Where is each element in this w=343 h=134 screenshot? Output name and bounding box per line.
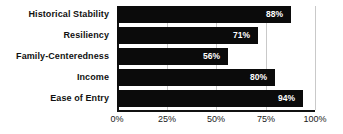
- gridline-100: [315, 6, 316, 110]
- category-axis-labels: Historical Stability Resiliency Family-C…: [0, 6, 113, 110]
- bar-value-income: 80%: [250, 69, 267, 86]
- bar-row-historical-stability: 88%: [117, 6, 315, 23]
- category-label-family-centeredness: Family-Centeredness: [16, 48, 109, 65]
- x-tick-label-25: 25%: [158, 114, 176, 124]
- x-axis-line: [117, 110, 315, 112]
- x-axis-tick-labels: 0% 25% 50% 75% 100%: [117, 114, 315, 128]
- x-tick-label-0: 0%: [110, 114, 123, 124]
- bar-row-family-centeredness: 56%: [117, 48, 315, 65]
- bar-value-family-centeredness: 56%: [203, 48, 220, 65]
- bar-ease-of-entry: [117, 90, 303, 107]
- plot-area: 88% 71% 56% 80% 94%: [117, 6, 315, 110]
- bar-row-ease-of-entry: 94%: [117, 90, 315, 107]
- category-label-historical-stability: Historical Stability: [28, 6, 109, 23]
- bar-value-resiliency: 71%: [233, 27, 250, 44]
- bar-value-historical-stability: 88%: [266, 6, 283, 23]
- bar-historical-stability: [117, 6, 291, 23]
- x-tick-label-50: 50%: [207, 114, 225, 124]
- bar-chart: Historical Stability Resiliency Family-C…: [0, 0, 343, 134]
- x-tick-label-100: 100%: [303, 114, 326, 124]
- category-label-resiliency: Resiliency: [63, 27, 109, 44]
- bar-value-ease-of-entry: 94%: [278, 90, 295, 107]
- bar-row-resiliency: 71%: [117, 27, 315, 44]
- category-label-ease-of-entry: Ease of Entry: [50, 90, 109, 107]
- bar-row-income: 80%: [117, 69, 315, 86]
- category-label-income: Income: [77, 69, 109, 86]
- x-tick-label-75: 75%: [257, 114, 275, 124]
